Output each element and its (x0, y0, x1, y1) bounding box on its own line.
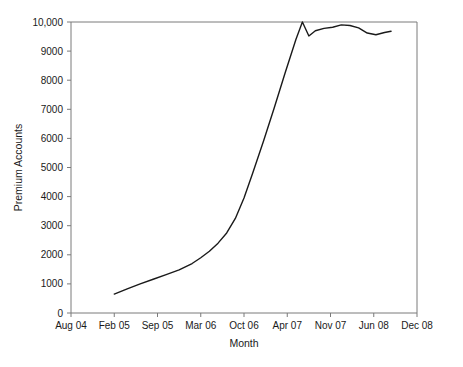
series-line (114, 22, 391, 294)
y-tick-label: 4000 (41, 191, 64, 202)
y-tick-label: 0 (57, 308, 63, 319)
x-tick-label: Sep 05 (142, 320, 174, 331)
x-tick-label: Nov 07 (315, 320, 347, 331)
y-axis-tick-labels: 010002000300040005000600070008000900010,… (32, 17, 63, 319)
x-tick-label: Jun 08 (359, 320, 389, 331)
x-axis-tick-labels: Aug 04Feb 05Sep 05Mar 06Oct 06Apr 07Nov … (55, 320, 433, 331)
y-tick-label: 5000 (41, 162, 64, 173)
y-axis-title: Premium Accounts (12, 124, 24, 212)
x-axis-title: Month (229, 337, 258, 349)
chart-container: 010002000300040005000600070008000900010,… (0, 0, 463, 367)
x-tick-label: Feb 05 (99, 320, 131, 331)
y-tick-label: 6000 (41, 133, 64, 144)
y-tick-label: 3000 (41, 220, 64, 231)
y-tick-label: 8000 (41, 75, 64, 86)
y-tick-label: 7000 (41, 104, 64, 115)
line-chart: 010002000300040005000600070008000900010,… (0, 0, 463, 367)
x-tick-label: Aug 04 (55, 320, 87, 331)
x-axis-ticks (71, 313, 417, 317)
x-tick-label: Mar 06 (185, 320, 217, 331)
y-tick-label: 2000 (41, 249, 64, 260)
data-series-layer (114, 22, 391, 294)
x-tick-label: Apr 07 (273, 320, 303, 331)
y-tick-label: 1000 (41, 278, 64, 289)
x-tick-label: Oct 06 (229, 320, 259, 331)
y-tick-label: 9000 (41, 46, 64, 57)
x-tick-label: Dec 08 (401, 320, 433, 331)
y-tick-label: 10,000 (32, 17, 63, 28)
plot-frame (71, 22, 417, 313)
y-axis-ticks (67, 22, 71, 313)
